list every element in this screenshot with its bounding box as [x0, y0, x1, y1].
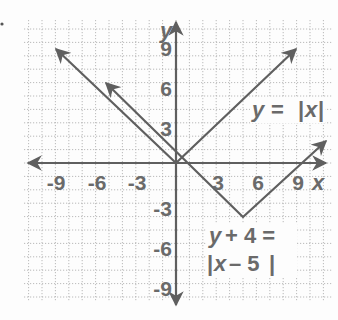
svg-text:|: | — [298, 97, 304, 122]
x-axis-label: x — [311, 170, 325, 195]
graph-figure: y x -9 -6 -3 3 6 9 9 6 3 -3 -6 -9 y = | … — [0, 0, 338, 320]
svg-text:x: x — [213, 251, 227, 276]
svg-text:x: x — [304, 97, 318, 122]
svg-text:|: | — [207, 251, 213, 276]
svg-text:=: = — [271, 97, 284, 122]
equation-parent: y = | x | — [250, 97, 325, 123]
coordinate-plane: y x -9 -6 -3 3 6 9 9 6 3 -3 -6 -9 y = | … — [0, 0, 338, 320]
y-tick-label: 9 — [160, 37, 172, 60]
x-tick-label: 9 — [292, 171, 304, 194]
x-tick-label: -3 — [128, 171, 147, 194]
svg-text:|: | — [318, 97, 324, 122]
svg-text:– 5: – 5 — [229, 251, 260, 276]
x-tick-label: 6 — [252, 171, 264, 194]
y-tick-label: -3 — [153, 197, 172, 220]
x-tick-label: -6 — [88, 171, 107, 194]
y-tick-label: 6 — [160, 77, 172, 100]
y-tick-label: 3 — [160, 117, 172, 140]
svg-text:+ 4 =: + 4 = — [225, 223, 275, 248]
svg-text:|: | — [269, 251, 275, 276]
equation-transformed: y + 4 = | x – 5 | — [207, 223, 297, 278]
svg-text:y: y — [251, 97, 266, 122]
bullet-dot — [0, 22, 3, 25]
svg-text:y: y — [208, 223, 223, 248]
x-tick-label: -9 — [47, 171, 66, 194]
y-tick-label: -6 — [153, 237, 172, 260]
y-tick-label: -9 — [153, 277, 172, 300]
x-tick-label: 3 — [212, 171, 224, 194]
